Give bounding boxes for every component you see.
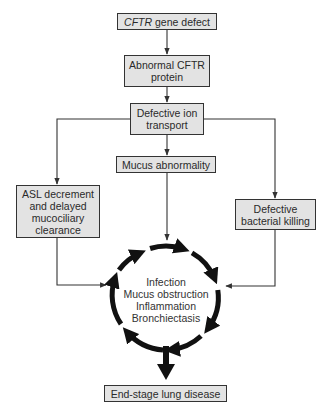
asl-label-line4: clearance bbox=[22, 224, 94, 236]
node-mucus-abnormality: Mucus abnormality bbox=[116, 156, 216, 173]
mucus-label: Mucus abnormality bbox=[122, 159, 210, 171]
bacterial-label-line2: bacterial killing bbox=[241, 215, 310, 227]
cycle-item-mucus-obstruction: Mucus obstruction bbox=[116, 288, 216, 300]
cycle-item-infection: Infection bbox=[116, 276, 216, 288]
ion-label-line2: transport bbox=[137, 119, 198, 131]
protein-label-line2: protein bbox=[129, 71, 205, 83]
end-stage-label: End-stage lung disease bbox=[111, 388, 221, 400]
node-end-stage-lung-disease: End-stage lung disease bbox=[104, 385, 227, 402]
asl-label-line1: ASL decrement bbox=[22, 188, 94, 200]
ion-label-line1: Defective ion bbox=[137, 107, 198, 119]
cycle-item-inflammation: Inflammation bbox=[116, 300, 216, 312]
arrow-ion-to-asl bbox=[57, 119, 130, 184]
gene-name: CFTR bbox=[124, 16, 152, 28]
node-defective-ion-transport: Defective iontransport bbox=[130, 103, 204, 135]
cycle-item-bronchiectasis: Bronchiectasis bbox=[116, 312, 216, 324]
asl-label-line3: mucociliary bbox=[22, 212, 94, 224]
node-defective-bacterial-killing: Defectivebacterial killing bbox=[235, 199, 316, 230]
arrow-bacterial-to-cycle bbox=[226, 230, 275, 286]
bacterial-label-line1: Defective bbox=[241, 203, 310, 215]
node-cftr-gene-defect: CFTR gene defect bbox=[117, 13, 217, 30]
node-abnormal-cftr-protein: Abnormal CFTRprotein bbox=[124, 55, 210, 87]
gene-defect-label: gene defect bbox=[152, 16, 210, 28]
protein-label-line1: Abnormal CFTR bbox=[129, 59, 205, 71]
asl-label-line2: and delayed bbox=[22, 200, 94, 212]
node-asl-decrement: ASL decrement and delayed mucociliary cl… bbox=[16, 185, 100, 238]
arrow-asl-to-cycle bbox=[57, 238, 106, 285]
cycle-text: Infection Mucus obstruction Inflammation… bbox=[116, 276, 216, 324]
